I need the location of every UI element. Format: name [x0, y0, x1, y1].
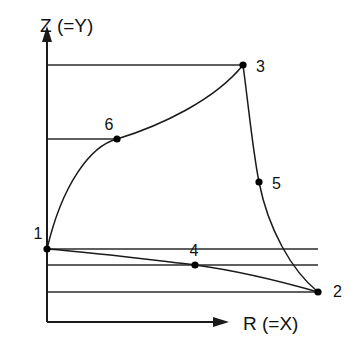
node-label-4: 4: [190, 242, 199, 259]
node-dot-4: [191, 261, 198, 268]
node-label-6: 6: [105, 116, 114, 133]
node-label-1: 1: [34, 225, 43, 242]
node-dot-1: [43, 245, 50, 252]
node-label-2: 2: [333, 283, 342, 300]
node-dot-6: [113, 135, 120, 142]
z-axis-label: Z (=Y): [40, 15, 93, 36]
diagram-canvas: 1 2 3 4 5 6 Z (=Y) R (=X): [0, 0, 356, 342]
node-dot-3: [239, 61, 246, 68]
curve-1-6-3: [47, 65, 243, 249]
node-dot-5: [255, 178, 262, 185]
node-label-5: 5: [272, 175, 281, 192]
r-axis-arrow-icon: [213, 317, 229, 327]
r-axis-label: R (=X): [243, 313, 298, 334]
node-dot-2: [314, 288, 321, 295]
node-label-3: 3: [256, 58, 265, 75]
axis-group: [42, 26, 229, 327]
curve-1-4-2: [47, 249, 318, 292]
rz-coordinate-diagram: 1 2 3 4 5 6 Z (=Y) R (=X): [0, 0, 356, 342]
